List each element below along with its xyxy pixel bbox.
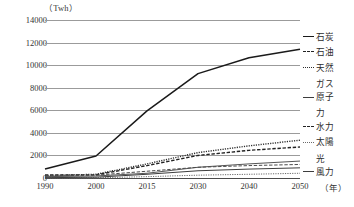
- legend-item-solar[interactable]: 太陽: [303, 135, 354, 151]
- legend-item-nuclear[interactable]: 原子: [303, 90, 354, 106]
- y-axis-tick-label: 4000: [1, 128, 47, 138]
- x-axis-tick-label: 1990: [37, 181, 54, 191]
- x-axis-tick-label: 2040: [241, 181, 258, 191]
- legend-item-natural-gas[interactable]: 天然: [303, 60, 354, 76]
- legend-item-label: 原子: [316, 93, 334, 102]
- gridline: [45, 178, 300, 179]
- series-lines: [45, 20, 300, 178]
- y-axis-tick-label: 14000: [1, 15, 47, 25]
- legend-item-hydro[interactable]: 水力: [303, 119, 354, 135]
- y-axis-tick-label: 6000: [1, 105, 47, 115]
- legend-item-label: 太陽: [316, 138, 334, 147]
- legend-item-label-continued: 光: [303, 151, 354, 165]
- y-axis-tick-label: 8000: [1, 83, 47, 93]
- legend-item-label: 石炭: [316, 33, 334, 42]
- x-axis-tick-label: 2000: [88, 181, 105, 191]
- x-axis-unit-text: 年: [329, 183, 338, 193]
- legend-item-label-continued: 力: [303, 105, 354, 119]
- y-axis-unit-label: （Twh）: [44, 1, 78, 13]
- y-axis-tick-label: 10000: [1, 60, 47, 70]
- x-axis-tick-label: 2015: [139, 181, 156, 191]
- series-line-oil: [45, 147, 300, 175]
- chart-legend: 石炭石油天然ガス原子力水力太陽光風力: [303, 29, 354, 180]
- line-chart: （Twh） 02000400060008000100001200014000 1…: [0, 0, 354, 207]
- x-axis-tick-label: 2030: [190, 181, 207, 191]
- legend-item-label: 天然: [316, 64, 334, 73]
- y-axis-tick-label: 12000: [1, 38, 47, 48]
- legend-item-label: 石油: [316, 48, 334, 57]
- legend-item-coal[interactable]: 石炭: [303, 29, 354, 45]
- legend-item-label: 風力: [316, 168, 334, 177]
- x-axis-unit-label: （年）: [320, 181, 347, 193]
- legend-item-label: 水力: [316, 123, 334, 132]
- series-line-coal: [45, 49, 300, 169]
- legend-item-wind[interactable]: 風力: [303, 165, 354, 181]
- legend-item-oil[interactable]: 石油: [303, 45, 354, 61]
- legend-item-label-continued: ガス: [303, 76, 354, 90]
- y-axis-tick-label: 2000: [1, 150, 47, 160]
- x-axis-tick-label: 2050: [292, 181, 309, 191]
- plot-area: [45, 20, 300, 178]
